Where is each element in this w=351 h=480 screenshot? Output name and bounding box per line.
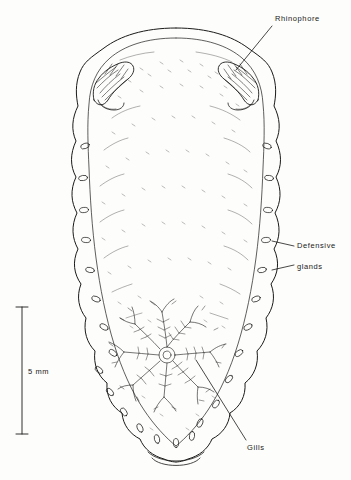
rhinophore-left [93, 62, 134, 110]
drawing-svg [0, 0, 351, 480]
foot-margin [148, 452, 204, 466]
defensive-glands-right [189, 142, 274, 441]
gill-branches [109, 299, 226, 412]
gill-rosette [109, 299, 226, 412]
defensive-glands-left [78, 142, 179, 447]
label-rhinophore: Rhinophore [275, 14, 320, 23]
mantle-inner-ridge [88, 38, 264, 446]
mantle-outline [72, 28, 281, 462]
gill-pinnules [109, 301, 225, 409]
leader-defensive-glands-2 [272, 265, 294, 270]
scale-bar-label: 5 mm [28, 367, 49, 376]
label-defensive-glands-line1: Defensive [297, 241, 336, 250]
leader-gills [196, 360, 246, 440]
scale-bar [16, 307, 28, 434]
label-gills: Gills [247, 443, 265, 452]
figure-canvas: Rhinophore Defensive glands Gills 5 mm [0, 0, 351, 480]
label-defensive-glands-line2: glands [297, 262, 323, 271]
notum-stipple [100, 52, 252, 430]
